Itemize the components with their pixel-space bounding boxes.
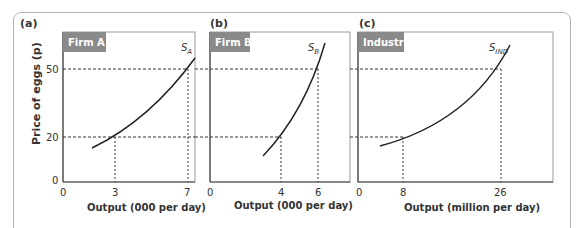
x-tick-b-6: 6 [315, 187, 321, 198]
panel-b-label: (b) [210, 17, 228, 30]
supply-curve-a [92, 58, 195, 148]
y-tick-20: 20 [46, 132, 59, 143]
x-axis-label-a: Output (000 per day) [87, 202, 206, 213]
supply-curve-industry [380, 45, 510, 146]
y-tick-0: 0 [52, 175, 58, 186]
panel-b-title: Firm B [215, 37, 252, 48]
panel-c-title: Industry [363, 37, 411, 48]
x-tick-b-0: 0 [207, 187, 213, 198]
panel-b: (b) Firm B SB 0 4 6 Output (000 per day) [195, 17, 353, 211]
x-tick-c-0: 0 [356, 187, 362, 198]
x-tick-a-7: 7 [184, 187, 190, 198]
panel-c-label: (c) [359, 17, 376, 30]
panel-a-label: (a) [20, 17, 37, 30]
panel-c: (c) Industry SIND 0 8 26 Output (million… [350, 17, 553, 213]
curve-label-sa: SA [181, 42, 192, 56]
supply-curve-b [263, 43, 325, 156]
x-axis-label-c: Output (million per day) [404, 202, 540, 213]
x-axis-label-b: Output (000 per day) [234, 200, 353, 211]
curve-label-sb: SB [308, 42, 319, 56]
x-tick-a-0: 0 [60, 187, 66, 198]
y-axis-label: Price of eggs (p) [30, 42, 43, 145]
x-tick-a-3: 3 [112, 187, 118, 198]
x-tick-c-26: 26 [494, 187, 507, 198]
panel-a-title: Firm A [68, 37, 105, 48]
x-tick-c-8: 8 [400, 187, 406, 198]
y-tick-50: 50 [46, 64, 59, 75]
panel-a: (a) Firm A SA 0 3 7 Output (000 per day) [20, 17, 206, 213]
x-tick-b-4: 4 [278, 187, 284, 198]
supply-curves-figure: Price of eggs (p) 50 20 0 (a) Firm A SA … [0, 0, 586, 228]
